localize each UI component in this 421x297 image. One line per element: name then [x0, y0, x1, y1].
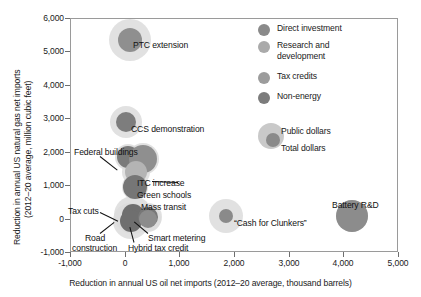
point-label-road-construction2: construction: [72, 243, 117, 253]
legend-item-non-energy[interactable]: Non-energy: [258, 90, 394, 106]
legend-inner-bubble-icon: [266, 133, 280, 147]
point-label-battery-rd: Battery R&D: [332, 200, 379, 210]
legend-item-tax-credits[interactable]: Tax credits: [258, 70, 394, 86]
point-label-federal-buildings: Federal buildings: [74, 147, 138, 157]
point-label-ccs-demonstration: CCS demonstration: [131, 124, 204, 134]
point-label-smart-metering: Smart metering: [148, 233, 205, 243]
point-label-hybrid-tax-credit: Hybrid tax credit: [128, 243, 188, 253]
legend-item-direct-investment[interactable]: Direct investment: [258, 22, 394, 38]
legend: Direct investment Research and developme…: [258, 22, 394, 159]
point-label-road: Road: [85, 233, 105, 243]
point-label-cash-for-clunkers: “Cash for Clunkers”: [234, 218, 307, 228]
legend-size-key: Public dollars Total dollars: [258, 119, 394, 159]
legend-label-research-and-development-line2: development: [277, 51, 325, 62]
legend-dot-icon-direct-investment: [258, 24, 270, 36]
legend-spacer: [258, 107, 394, 119]
legend-label-total-dollars: Total dollars: [281, 143, 326, 153]
legend-dot-icon-research-and-development: [258, 41, 270, 53]
legend-label-public-dollars: Public dollars: [281, 126, 331, 136]
legend-item-research-and-development[interactable]: Research and development: [258, 39, 394, 63]
point-label-ptc-extension: PTC extension: [133, 40, 188, 50]
point-label-tax-cuts: Tax cuts: [68, 206, 99, 216]
legend-dot-icon-non-energy: [258, 92, 270, 104]
legend-label-tax-credits: Tax credits: [277, 71, 317, 82]
legend-label-direct-investment: Direct investment: [277, 23, 342, 34]
legend-dot-icon-tax-credits: [258, 72, 270, 84]
bubble-hybrid-tax-credit[interactable]: [139, 210, 157, 228]
point-label-mass-transit: Mass transit: [141, 202, 186, 212]
bubble-cash-for-clunkers[interactable]: [219, 209, 233, 223]
bubble-chart: Reduction in annual US natural gas net i…: [0, 0, 421, 297]
point-label-green-schools: Green schools: [137, 190, 191, 200]
legend-label-research-and-development: Research and: [277, 40, 329, 51]
legend-label-non-energy: Non-energy: [277, 91, 321, 102]
